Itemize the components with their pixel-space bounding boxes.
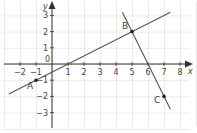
origin-label: 0 bbox=[45, 55, 50, 64]
x-tick-label: 1 bbox=[65, 68, 70, 77]
point-a bbox=[34, 78, 38, 82]
x-tick-label: −2 bbox=[14, 68, 26, 77]
x-tick-label: 3 bbox=[97, 68, 102, 77]
y-axis-arrow-icon bbox=[49, 1, 56, 9]
coordinate-graph: −2−112345678321−1−2−3 ABC x y 0 bbox=[0, 0, 197, 133]
y-tick-label: 3 bbox=[43, 11, 48, 20]
point-label-c: C bbox=[154, 95, 160, 105]
x-tick-label: 2 bbox=[81, 68, 86, 77]
grid-lines bbox=[2, 2, 197, 129]
y-tick-label: 1 bbox=[43, 44, 48, 53]
y-tick-label: 2 bbox=[43, 28, 48, 37]
y-tick-label: −2 bbox=[36, 92, 48, 101]
x-axis-label: x bbox=[187, 67, 193, 76]
point-label-b: B bbox=[122, 21, 128, 31]
x-tick-label: 6 bbox=[145, 68, 150, 77]
x-tick-label: 8 bbox=[177, 68, 182, 77]
point-b bbox=[130, 30, 134, 34]
y-axis-label: y bbox=[42, 2, 48, 11]
y-tick-label: −3 bbox=[36, 109, 48, 118]
line-BC bbox=[122, 12, 170, 109]
x-tick-label: 4 bbox=[113, 68, 118, 77]
x-tick-label: 5 bbox=[129, 68, 134, 77]
x-tick-label: 7 bbox=[161, 68, 166, 77]
plotted-lines bbox=[9, 12, 171, 109]
point-c bbox=[162, 95, 166, 99]
point-label-a: A bbox=[27, 81, 34, 91]
